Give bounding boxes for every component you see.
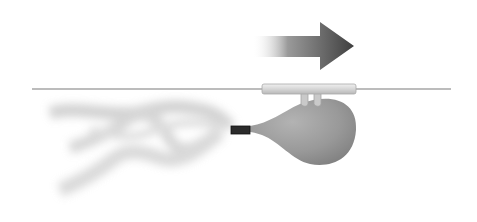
balloon-rocket-illustration [0, 0, 477, 222]
balloon [250, 99, 356, 165]
nozzle [231, 126, 250, 134]
motion-arrow-icon [252, 22, 354, 70]
exhaust-air [50, 107, 230, 190]
straw [262, 84, 356, 94]
